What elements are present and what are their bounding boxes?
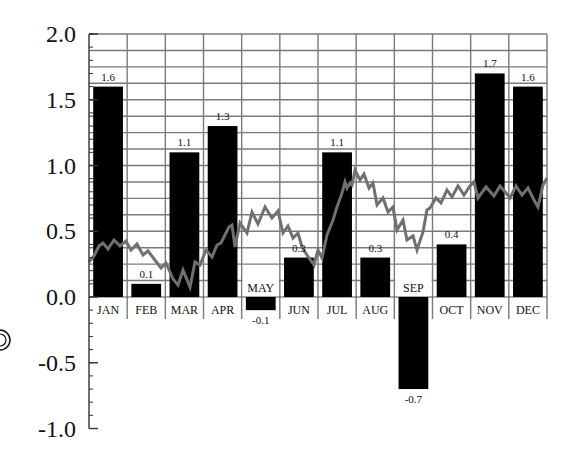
month-label-jul: JUL [327,303,348,317]
value-label: 0.4 [445,228,459,240]
value-label: -0.7 [405,393,423,405]
month-label-feb: FEB [135,303,157,317]
bar-oct [437,244,467,297]
month-label-nov: NOV [477,303,503,317]
bar-feb [131,284,161,297]
circled-symbol-icon [0,330,10,350]
month-label-jun: JUN [288,303,310,317]
y-tick-label: 1.5 [46,87,76,113]
month-label-mar: MAR [171,303,198,317]
bar-jan [93,87,123,297]
y-tick-label: 0.0 [46,284,76,310]
y-axis: 2.01.51.00.50.0-0.5-1.0 [38,21,98,442]
y-tick-label: 2.0 [46,21,76,47]
month-label-jan: JAN [97,303,119,317]
value-label: 1.7 [483,57,497,69]
month-label-apr: APR [211,303,234,317]
bar-dec [513,87,543,297]
bar-jun [284,258,314,297]
value-label: 0.1 [139,268,153,280]
value-label: 1.6 [101,71,115,83]
y-tick-label: 0.5 [46,218,76,244]
month-label-sep: SEP [403,281,424,295]
month-label-aug: AUG [362,303,388,317]
y-tick-label: 1.0 [46,153,76,179]
bar-line-chart: 2.01.51.00.50.0-0.5-1.0 1.6JAN0.1FEB1.1M… [0,0,576,461]
bar-apr [208,126,238,297]
bar-may [246,297,276,310]
value-label: 1.3 [216,110,230,122]
value-label: 0.3 [292,242,306,254]
value-label: 1.6 [521,71,535,83]
bar-sep [399,297,429,389]
y-tick-label: -0.5 [38,350,76,376]
value-label: -0.1 [252,314,269,326]
y-tick-label: -1.0 [38,416,76,442]
month-label-dec: DEC [516,303,540,317]
month-label-may: MAY [247,281,274,295]
bar-aug [360,258,390,297]
value-label: 1.1 [330,136,344,148]
value-label: 0.3 [368,242,382,254]
month-label-oct: OCT [440,303,465,317]
bar-jul [322,152,352,297]
value-label: 1.1 [178,136,192,148]
